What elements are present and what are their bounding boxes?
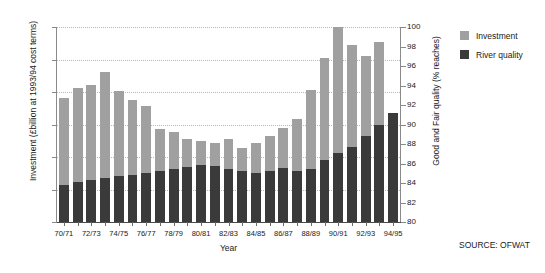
y-axis-right-tick-mark	[401, 86, 406, 87]
bar-group[interactable]	[237, 27, 247, 222]
bar-group[interactable]	[210, 27, 220, 222]
bar-river-quality[interactable]	[196, 165, 206, 222]
legend-swatch-icon	[459, 49, 470, 60]
y-axis-right-tick-label: 84	[407, 179, 431, 187]
bar-river-quality[interactable]	[141, 173, 151, 222]
bar-river-quality[interactable]	[100, 178, 110, 222]
bar-river-quality[interactable]	[128, 175, 138, 222]
x-axis-tick-mark	[366, 222, 367, 226]
bar-group[interactable]	[155, 27, 165, 222]
bar-river-quality[interactable]	[320, 160, 330, 222]
legend-item-label: Investment	[476, 31, 518, 41]
bar-river-quality[interactable]	[388, 113, 398, 222]
y-axis-right-tick-label: 88	[407, 140, 431, 148]
y-axis-right-tick-label: 86	[407, 160, 431, 168]
bar-river-quality[interactable]	[265, 171, 275, 222]
y-axis-right-tick-mark	[401, 164, 406, 165]
bar-river-quality[interactable]	[86, 180, 96, 222]
chart-figure: 00.511.522.53 80828486889092949698100 70…	[0, 0, 545, 273]
y-axis-right-tick-mark	[401, 105, 406, 106]
y-axis-right-tick-mark	[401, 183, 406, 184]
bar-group[interactable]	[292, 27, 302, 222]
x-axis-tick-mark	[105, 222, 106, 226]
y-axis-right-tick-label: 100	[407, 23, 431, 31]
y-axis-right-tick-mark	[401, 222, 406, 223]
bar-river-quality[interactable]	[169, 169, 179, 222]
x-axis-tick-mark	[215, 222, 216, 226]
bar-group[interactable]	[73, 27, 83, 222]
x-axis-tick-mark	[187, 222, 188, 226]
bar-river-quality[interactable]	[114, 176, 124, 222]
bar-river-quality[interactable]	[182, 167, 192, 222]
bar-group[interactable]	[224, 27, 234, 222]
x-axis-title: Year	[57, 243, 400, 253]
y-axis-right-tick-label: 96	[407, 62, 431, 70]
x-axis-tick-mark	[146, 222, 147, 226]
bar-river-quality[interactable]	[306, 169, 316, 222]
x-axis-tick-mark	[311, 222, 312, 226]
x-axis-tick-mark	[352, 222, 353, 226]
bar-group[interactable]	[374, 27, 384, 222]
bar-river-quality[interactable]	[292, 171, 302, 222]
bar-group[interactable]	[347, 27, 357, 222]
y-axis-right-tick-mark	[401, 144, 406, 145]
y-axis-right-tick-mark	[401, 203, 406, 204]
x-axis-tick-mark	[78, 222, 79, 226]
y-axis-right-title: Good and Fair quality (% reaches)	[431, 1, 441, 201]
y-axis-left-tick-mark	[52, 27, 57, 28]
x-axis-tick-mark	[297, 222, 298, 226]
y-axis-left-tick-mark	[52, 125, 57, 126]
bar-group[interactable]	[278, 27, 288, 222]
bar-group[interactable]	[361, 27, 371, 222]
bar-river-quality[interactable]	[347, 147, 357, 222]
x-axis-tick-mark	[119, 222, 120, 226]
bar-river-quality[interactable]	[374, 125, 384, 223]
y-axis-left-tick-mark	[52, 92, 57, 93]
bar-group[interactable]	[59, 27, 69, 222]
bar-river-quality[interactable]	[251, 173, 261, 222]
x-axis-tick-mark	[270, 222, 271, 226]
bar-group[interactable]	[128, 27, 138, 222]
bar-group[interactable]	[182, 27, 192, 222]
y-axis-right-tick-label: 80	[407, 218, 431, 226]
legend-item[interactable]: River quality	[459, 49, 545, 60]
x-axis-tick-mark	[174, 222, 175, 226]
bar-river-quality[interactable]	[155, 171, 165, 222]
bar-group[interactable]	[86, 27, 96, 222]
bar-river-quality[interactable]	[73, 182, 83, 222]
bar-river-quality[interactable]	[59, 185, 69, 222]
y-axis-right-tick-mark	[401, 27, 406, 28]
bar-river-quality[interactable]	[224, 169, 234, 222]
x-axis-tick-mark	[338, 222, 339, 226]
x-axis-tick-mark	[325, 222, 326, 226]
x-axis-tick-mark	[242, 222, 243, 226]
bar-river-quality[interactable]	[237, 171, 247, 222]
x-axis-tick-mark	[379, 222, 380, 226]
bar-group[interactable]	[141, 27, 151, 222]
bar-group[interactable]	[169, 27, 179, 222]
x-axis-tick-label: 94/95	[376, 229, 410, 238]
x-axis-tick-mark	[229, 222, 230, 226]
bar-river-quality[interactable]	[333, 153, 343, 222]
y-axis-right-tick-label: 94	[407, 82, 431, 90]
y-axis-left-tick-mark	[52, 222, 57, 223]
bar-river-quality[interactable]	[210, 166, 220, 222]
y-axis-right-tick-mark	[401, 66, 406, 67]
y-axis-right-tick-mark	[401, 125, 406, 126]
bar-group[interactable]	[333, 27, 343, 222]
bar-group[interactable]	[388, 27, 398, 222]
plot-area	[57, 27, 400, 222]
bar-group[interactable]	[251, 27, 261, 222]
legend-item[interactable]: Investment	[459, 30, 545, 41]
bar-group[interactable]	[320, 27, 330, 222]
x-axis-tick-mark	[256, 222, 257, 226]
bar-group[interactable]	[114, 27, 124, 222]
bar-group[interactable]	[306, 27, 316, 222]
bar-river-quality[interactable]	[361, 136, 371, 222]
bar-river-quality[interactable]	[278, 168, 288, 222]
bar-group[interactable]	[196, 27, 206, 222]
bar-group[interactable]	[100, 27, 110, 222]
source-note: SOURCE: OFWAT	[459, 240, 530, 250]
bar-group[interactable]	[265, 27, 275, 222]
y-axis-right-tick-label: 82	[407, 199, 431, 207]
